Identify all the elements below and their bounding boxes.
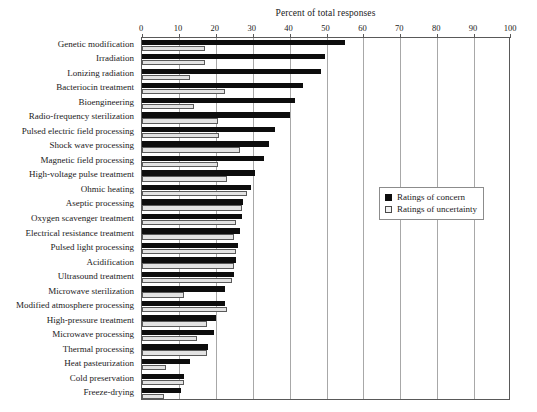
chart-axis-title: Percent of total responses — [141, 8, 510, 18]
y-axis-label-14: Pulsed light processing — [51, 242, 135, 252]
bar-group — [142, 140, 509, 155]
bar-concern — [142, 40, 345, 45]
bar-concern — [142, 185, 251, 190]
bar-concern — [142, 83, 303, 88]
bar-uncertainty — [142, 118, 218, 123]
chart-figure: Percent of total responses 0102030405060… — [0, 0, 537, 412]
y-axis-label-10: Ohmic heating — [81, 184, 134, 194]
bar-uncertainty — [142, 365, 166, 370]
bar-concern — [142, 199, 243, 204]
bar-concern — [142, 228, 240, 233]
y-axis-label-2: Lonizing radiation — [67, 68, 134, 78]
bar-concern — [142, 112, 290, 117]
bar-concern — [142, 257, 236, 262]
y-axis-label-1: Irradiation — [96, 53, 134, 63]
y-axis-label-6: Pulsed electric field processing — [22, 126, 134, 136]
bar-concern — [142, 69, 321, 74]
open-square-icon — [385, 206, 392, 213]
bar-uncertainty — [142, 191, 247, 196]
bar-group — [142, 111, 509, 126]
bar-concern — [142, 330, 214, 335]
y-axis-label-4: Bioengineering — [79, 97, 135, 107]
bar-group — [142, 372, 509, 387]
legend-label-uncertainty: Ratings of uncertainty — [397, 204, 477, 214]
y-axis-label-8: Magnetic field processing — [41, 155, 134, 165]
bar-uncertainty — [142, 162, 218, 167]
legend-item-uncertainty: Ratings of uncertainty — [385, 203, 477, 215]
bar-group — [142, 285, 509, 300]
bar-concern — [142, 54, 325, 59]
bar-uncertainty — [142, 220, 236, 225]
y-axis-category-labels: Genetic modificationIrradiationLonizing … — [0, 37, 138, 400]
bar-uncertainty — [142, 321, 207, 326]
y-axis-label-12: Oxygen scavenger treatment — [31, 213, 134, 223]
bar-group — [142, 67, 509, 82]
bar-concern — [142, 214, 242, 219]
x-tick-label-0: 0 — [139, 23, 143, 33]
bar-uncertainty — [142, 307, 227, 312]
bar-uncertainty — [142, 205, 242, 210]
bar-concern — [142, 141, 269, 146]
y-axis-label-20: Microwave processing — [52, 329, 134, 339]
bar-group — [142, 357, 509, 372]
y-axis-label-7: Shock wave processing — [50, 140, 134, 150]
y-axis-label-19: High-pressure treatment — [47, 315, 134, 325]
bar-group — [142, 270, 509, 285]
bar-concern — [142, 156, 264, 161]
bar-group — [142, 169, 509, 184]
y-axis-label-16: Ultrasound treatment — [58, 271, 134, 281]
bar-uncertainty — [142, 380, 184, 385]
y-axis-label-15: Acidification — [87, 257, 134, 267]
x-tick-label-30: 30 — [247, 23, 256, 33]
bar-group — [142, 125, 509, 140]
legend-label-concern: Ratings of concern — [397, 192, 465, 202]
y-axis-label-17: Microwave sterilization — [48, 286, 134, 296]
bar-group — [142, 53, 509, 68]
bar-uncertainty — [142, 60, 205, 65]
y-axis-label-22: Heat pasteurization — [64, 358, 134, 368]
x-tick-label-60: 60 — [358, 23, 367, 33]
bar-group — [142, 227, 509, 242]
bar-concern — [142, 374, 184, 379]
bar-group — [142, 343, 509, 358]
legend-item-concern: Ratings of concern — [385, 191, 477, 203]
bar-concern — [142, 272, 234, 277]
bar-concern — [142, 98, 295, 103]
y-axis-label-5: Radio-frequency sterilization — [29, 111, 134, 121]
bar-uncertainty — [142, 147, 240, 152]
bar-uncertainty — [142, 278, 232, 283]
x-tick-label-20: 20 — [211, 23, 220, 33]
bar-group — [142, 96, 509, 111]
bar-uncertainty — [142, 263, 234, 268]
x-tick-label-80: 80 — [432, 23, 441, 33]
y-axis-label-21: Thermal processing — [63, 344, 134, 354]
bar-group — [142, 38, 509, 53]
bar-uncertainty — [142, 89, 225, 94]
bar-concern — [142, 301, 225, 306]
bar-uncertainty — [142, 133, 219, 138]
bar-concern — [142, 127, 275, 132]
bar-uncertainty — [142, 394, 164, 399]
x-tick-label-10: 10 — [174, 23, 183, 33]
bar-concern — [142, 344, 208, 349]
bar-uncertainty — [142, 104, 194, 109]
bar-uncertainty — [142, 350, 207, 355]
y-axis-label-23: Cold preservation — [70, 373, 134, 383]
x-tick-label-100: 100 — [504, 23, 517, 33]
bar-group — [142, 82, 509, 97]
chart-legend: Ratings of concern Ratings of uncertaint… — [379, 187, 484, 220]
x-tick-mark-100 — [510, 34, 511, 38]
bar-uncertainty — [142, 176, 227, 181]
bar-uncertainty — [142, 46, 205, 51]
x-tick-label-90: 90 — [469, 23, 478, 33]
x-axis-tick-labels: 0102030405060708090100 — [141, 23, 510, 35]
y-axis-label-18: Modified atmosphere processing — [16, 300, 134, 310]
bar-concern — [142, 243, 238, 248]
bar-concern — [142, 388, 181, 393]
bar-group — [142, 241, 509, 256]
bar-uncertainty — [142, 292, 184, 297]
y-axis-label-3: Bacteriocin treatment — [56, 82, 134, 92]
bar-concern — [142, 170, 255, 175]
x-tick-label-50: 50 — [321, 23, 330, 33]
x-tick-label-70: 70 — [395, 23, 404, 33]
